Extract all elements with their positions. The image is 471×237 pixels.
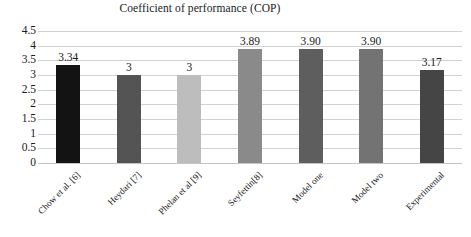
bar	[359, 49, 383, 163]
x-axis-tick-label: Seyfettin[8]	[226, 170, 264, 208]
y-axis-tick-label: 2	[2, 98, 36, 110]
bar-value-label: 3.90	[361, 35, 381, 47]
bar-value-label: 3.90	[301, 35, 321, 47]
y-axis-tick-label: 0	[2, 157, 36, 169]
bar	[238, 49, 262, 163]
y-axis-tick-label: 2.5	[2, 84, 36, 96]
y-axis-tick-label: 4	[2, 40, 36, 52]
bar	[299, 49, 323, 163]
bar-value-label: 3	[126, 61, 132, 73]
chart-title: Coefficient of performance (COP)	[0, 2, 400, 14]
y-axis-tick-label: 0.5	[2, 142, 36, 154]
bar-value-label: 3.17	[422, 56, 442, 68]
bar-value-label: 3.34	[58, 51, 78, 63]
x-axis-tick-label: Model one	[290, 170, 325, 205]
y-axis-tick-label: 1.5	[2, 113, 36, 125]
bar-value-label: 3.89	[240, 35, 260, 47]
bar	[117, 75, 141, 163]
x-axis-tick-label: Heydari [7]	[106, 170, 143, 207]
y-axis-tick-label: 4.5	[2, 25, 36, 37]
x-axis-tick-label: Phelan et al [9]	[157, 170, 204, 217]
y-axis-tick-label: 1	[2, 128, 36, 140]
y-axis-tick-label: 3.5	[2, 54, 36, 66]
y-axis-tick-label: 3	[2, 69, 36, 81]
x-axis-labels: Chow et al. [6]Heydari [7]Phelan et al […	[38, 163, 462, 237]
x-axis-tick-label: Model two	[350, 170, 385, 205]
x-axis-tick-label: Chow et al. [6]	[36, 170, 82, 216]
bar	[420, 70, 444, 163]
gridline	[38, 31, 462, 32]
bar-chart: Coefficient of performance (COP) 00.511.…	[0, 0, 471, 237]
plot-area: 3.34333.893.903.903.17	[38, 31, 462, 163]
bar	[56, 65, 80, 163]
y-axis: 00.511.522.533.544.5	[0, 31, 36, 163]
x-axis-tick-label: Experimental	[404, 170, 446, 212]
bar-value-label: 3	[187, 61, 193, 73]
bar	[177, 75, 201, 163]
